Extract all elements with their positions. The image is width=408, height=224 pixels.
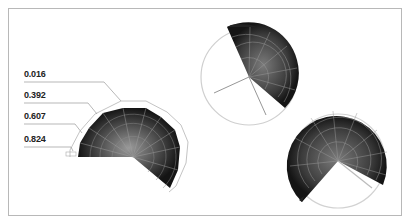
radar-chart-3 xyxy=(287,111,387,208)
annotation-label: 0.392 xyxy=(24,90,46,100)
radar-charts xyxy=(0,0,408,224)
annotation-label: 0.016 xyxy=(24,69,46,79)
annotation-label: 0.607 xyxy=(24,111,46,121)
radar-chart-1 xyxy=(24,82,188,192)
radar-chart-2 xyxy=(201,22,299,125)
annotation-label: 0.824 xyxy=(24,134,46,144)
filled-sector xyxy=(227,22,299,108)
